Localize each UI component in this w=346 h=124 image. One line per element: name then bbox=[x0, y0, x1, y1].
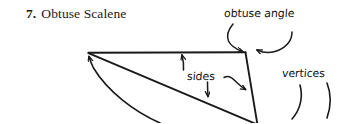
triangle-right-side bbox=[246, 53, 258, 123]
label-vertices: vertices bbox=[282, 67, 326, 80]
label-sides: sides bbox=[187, 70, 216, 83]
curved-arrow-down-icon bbox=[228, 24, 243, 52]
arrow-down-icon bbox=[208, 82, 209, 97]
curved-arrow-up-left-icon bbox=[89, 57, 160, 124]
triangle-diagram bbox=[0, 0, 346, 123]
figure-page: 7.Obtuse Scalene bbox=[0, 0, 346, 123]
arc-pointer-icon bbox=[327, 83, 330, 118]
arc-pointer-icon bbox=[292, 85, 301, 119]
label-obtuse-angle: obtuse angle bbox=[224, 7, 295, 20]
triangle-top-side bbox=[89, 52, 246, 53]
arrow-up-icon bbox=[182, 55, 184, 70]
triangle-long-side bbox=[89, 53, 259, 123]
arrow-right-icon bbox=[224, 77, 246, 90]
curved-arrow-down-left-icon bbox=[257, 32, 292, 53]
